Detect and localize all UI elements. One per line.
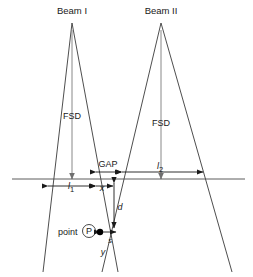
dimension-l2: l2 [122, 161, 203, 174]
x-label: x [99, 183, 105, 193]
beam-1-fsd-label: FSD [63, 111, 82, 121]
l2-label-subscript: 2 [159, 165, 163, 174]
beam-2-right-edge [161, 23, 232, 272]
l1-label: l1 [68, 181, 74, 194]
y-label: y [100, 247, 106, 257]
point-p-group: point P [58, 225, 103, 238]
beam-2-left-edge [102, 23, 161, 272]
point-p-symbol: P [86, 226, 92, 236]
point-p-marker [97, 229, 103, 235]
s-label: s [108, 236, 112, 245]
dimension-gap: GAP [96, 159, 121, 172]
diagram-canvas: Beam I FSD Beam II FSD GAP l2 [0, 0, 253, 277]
point-label: point [58, 227, 78, 237]
dimension-x: x [96, 183, 113, 193]
gap-label: GAP [98, 159, 117, 169]
beam-geometry-diagram: Beam I FSD Beam II FSD GAP l2 [0, 0, 253, 277]
beam-2-group: Beam II FSD [102, 5, 232, 272]
beam-1-title: Beam I [57, 5, 87, 16]
dimension-l1: l1 [48, 181, 95, 194]
beam-2-title: Beam II [145, 5, 178, 16]
beam-2-fsd-label: FSD [152, 118, 171, 128]
l1-label-subscript: 1 [70, 185, 74, 194]
dimension-d: d [114, 183, 123, 228]
d-label: d [117, 202, 123, 212]
